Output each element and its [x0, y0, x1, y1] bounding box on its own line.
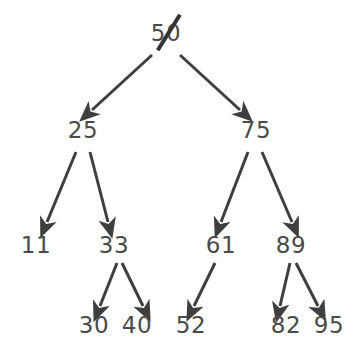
edge-line: [122, 263, 143, 306]
edge-line: [100, 263, 117, 306]
tree-node-label: 11: [21, 232, 51, 258]
tree-edge-n75-to-n61: [221, 152, 248, 222]
tree-edge-n33-to-n30: [100, 263, 117, 306]
tree-node-label: 50: [151, 20, 181, 46]
tree-edge-n50-to-n25: [92, 55, 152, 110]
tree-diagram-canvas: 502575113361893040528295: [0, 0, 359, 354]
tree-edge-n89-to-n82: [280, 263, 290, 306]
tree-edge-n33-to-n40: [122, 263, 143, 306]
tree-node-label: 89: [276, 232, 306, 258]
edge-line: [90, 152, 108, 222]
tree-edge-n75-to-n89: [262, 152, 292, 222]
tree-node-82: 82: [271, 314, 301, 337]
tree-node-30: 30: [79, 314, 109, 337]
tree-node-40: 40: [122, 314, 152, 337]
tree-node-label: 75: [241, 117, 271, 143]
tree-edge-n61-to-n52: [194, 263, 215, 306]
tree-edges-layer: [0, 0, 359, 354]
tree-node-label: 82: [271, 312, 301, 338]
tree-node-75: 75: [241, 119, 271, 142]
tree-node-11: 11: [21, 234, 51, 257]
edge-line: [180, 55, 240, 110]
edge-line: [92, 55, 152, 110]
edge-line: [262, 152, 292, 222]
tree-node-label: 61: [206, 232, 236, 258]
tree-node-label: 33: [99, 232, 129, 258]
tree-node-61: 61: [206, 234, 236, 257]
edge-line: [280, 263, 290, 306]
tree-node-52: 52: [176, 314, 206, 337]
edge-line: [194, 263, 215, 306]
edge-line: [221, 152, 248, 222]
tree-edge-n25-to-n11: [47, 152, 76, 222]
tree-node-89: 89: [276, 234, 306, 257]
tree-edge-n25-to-n33: [90, 152, 108, 222]
tree-node-25: 25: [68, 119, 98, 142]
tree-node-95: 95: [314, 314, 344, 337]
tree-edge-n50-to-n75: [180, 55, 240, 110]
edge-line: [296, 263, 318, 306]
tree-node-50: 50: [151, 22, 181, 45]
tree-node-label: 95: [314, 312, 344, 338]
tree-node-33: 33: [99, 234, 129, 257]
tree-node-label: 40: [122, 312, 152, 338]
tree-node-label: 52: [176, 312, 206, 338]
tree-node-label: 30: [79, 312, 109, 338]
tree-node-label: 25: [68, 117, 98, 143]
tree-edge-n89-to-n95: [296, 263, 318, 306]
edge-line: [47, 152, 76, 222]
